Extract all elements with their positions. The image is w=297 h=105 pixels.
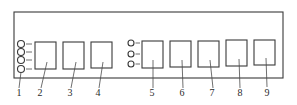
indicator-light-icon [128, 40, 134, 46]
callout-label-8: 8 [238, 87, 243, 98]
callout-label-7: 7 [210, 87, 215, 98]
leader-line-8 [239, 59, 240, 88]
callout-label-4: 4 [96, 87, 101, 98]
callout-label-6: 6 [180, 87, 185, 98]
indicator-light-icon [18, 41, 25, 48]
leader-line-3 [71, 62, 76, 88]
leader-line-9 [266, 58, 267, 87]
module-box-3 [63, 42, 84, 69]
indicator-lights [18, 40, 141, 73]
callout-labels: 123456789 [17, 87, 270, 98]
module-box-5 [142, 41, 163, 68]
module-box-8 [226, 40, 247, 66]
module-box-4 [91, 42, 112, 68]
module-box-7 [198, 41, 219, 67]
callout-label-5: 5 [150, 87, 155, 98]
leader-line-2 [41, 62, 47, 88]
indicator-light-icon [128, 61, 134, 67]
callout-label-9: 9 [265, 87, 270, 98]
indicator-group-group-left [18, 41, 33, 73]
leader-line-6 [182, 60, 183, 88]
indicator-light-icon [18, 57, 25, 64]
indicator-light-icon [18, 49, 25, 56]
module-box-2 [35, 42, 56, 69]
callout-label-3: 3 [68, 87, 73, 98]
indicator-light-icon [18, 66, 25, 73]
leader-line-1 [19, 72, 21, 88]
callout-label-2: 2 [38, 87, 43, 98]
module-box-6 [170, 41, 191, 67]
indicator-group-group-mid [128, 40, 140, 67]
panel-diagram: 123456789 [0, 0, 297, 105]
module-box-9 [254, 40, 275, 65]
callout-label-1: 1 [17, 87, 22, 98]
leader-line-7 [210, 60, 213, 88]
indicator-light-icon [128, 51, 134, 57]
leader-line-4 [99, 62, 103, 88]
